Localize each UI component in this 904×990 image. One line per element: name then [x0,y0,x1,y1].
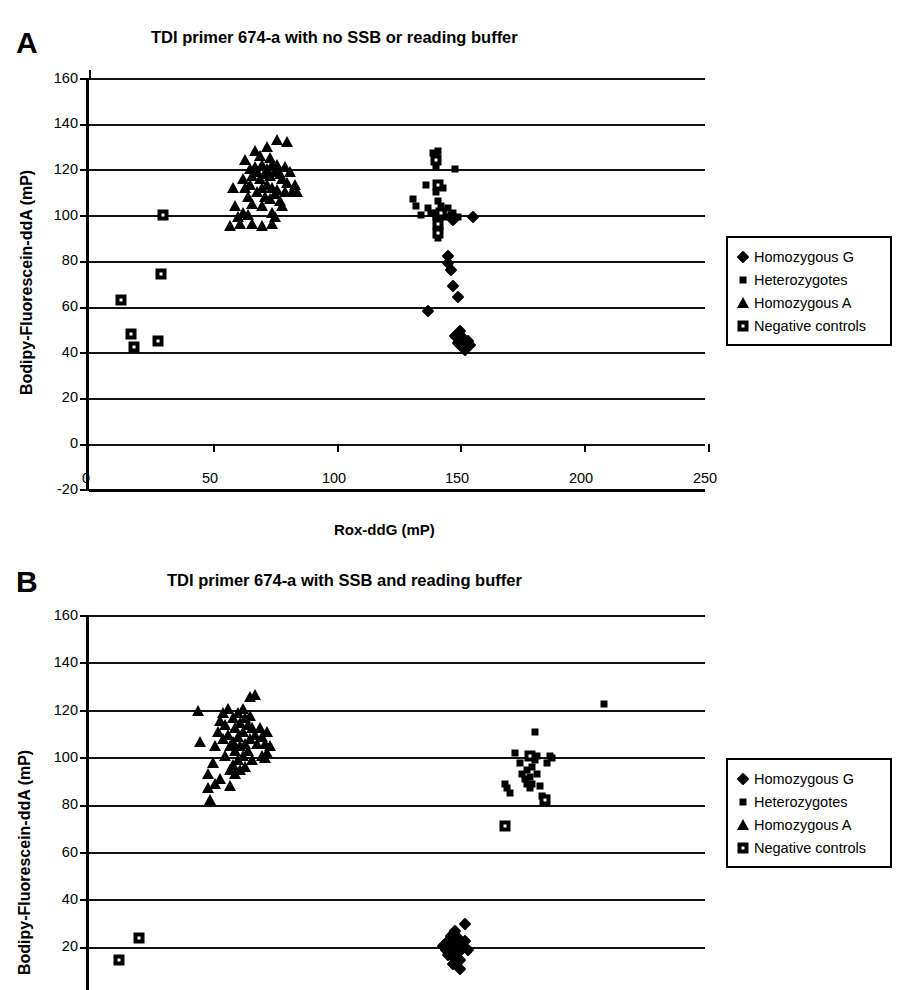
data-point-heterozygotes [536,783,543,790]
data-point-negative-controls [155,269,166,280]
data-point-homozygous-a [224,780,236,791]
small-square-marker [735,793,752,810]
data-point-negative-controls [539,795,550,806]
gridline-100 [89,215,705,217]
panel-b-letter: B [16,567,38,597]
gridline-160 [89,615,705,617]
xtick-label: 50 [190,470,230,486]
diamond-marker [737,773,750,786]
data-point-homozygous-a [194,736,206,747]
data-point-heterozygotes [549,755,556,762]
panel-a: A TDI primer 674-a with no SSB or readin… [0,0,904,555]
data-point-heterozygotes [534,771,541,778]
gridline-140 [89,662,705,664]
data-point-heterozygotes [529,780,536,787]
legend-item-negative-controls: Negative controls [735,314,881,337]
triangle-marker [735,816,752,833]
triangle-marker [737,297,749,308]
data-point-negative-controls [524,750,535,761]
data-point-homozygous-g [466,211,479,224]
panel-a-letter: A [16,28,38,58]
legend-item-negative-controls: Negative controls [735,836,881,859]
data-point-negative-controls [113,954,124,965]
ytick-label: 140 [28,115,78,131]
data-point-homozygous-a [261,726,273,737]
dotted-square-marker [735,839,752,856]
panel-b: B TDI primer 674-a with SSB and reading … [0,555,904,990]
data-point-heterozygotes [531,729,538,736]
data-point-negative-controls [116,294,127,305]
data-point-negative-controls [500,820,511,831]
panel-b-title: TDI primer 674-a with SSB and reading bu… [167,571,522,590]
triangle-marker [737,819,749,830]
data-point-homozygous-a [244,710,256,721]
gridline-60 [89,852,705,854]
data-point-negative-controls [158,210,169,221]
data-point-negative-controls [430,155,441,166]
legend-item-label: Negative controls [752,318,866,334]
ytick-label: 80 [28,252,78,268]
legend-item-label: Homozygous G [752,771,854,787]
data-point-homozygous-a [266,218,278,229]
data-point-homozygous-a [281,136,293,147]
gridline-80 [89,261,705,263]
dotted-square-marker [735,317,752,334]
gridline-140 [89,124,705,126]
data-point-heterozygotes [516,759,523,766]
data-point-homozygous-g [459,918,472,931]
legend-item-homozygous-a: Homozygous A [735,813,881,836]
diamond-marker [735,770,752,787]
data-point-negative-controls [153,335,164,346]
data-point-negative-controls [126,328,137,339]
data-point-heterozygotes [601,701,608,708]
data-point-heterozygotes [526,773,533,780]
gridline-120 [89,169,705,171]
panel-a-y-axis-label: Bodipy-Fluorescein-ddA (mP) [18,170,36,395]
legend-item-homozygous-a: Homozygous A [735,291,881,314]
xtick-label: 100 [314,470,354,486]
data-point-negative-controls [133,933,144,944]
legend-item-label: Heterozygotes [752,794,848,810]
data-point-negative-controls [128,342,139,353]
triangle-marker [735,294,752,311]
ytick-label: 140 [28,654,78,670]
data-point-heterozygotes [422,182,429,189]
legend-item-label: Homozygous G [752,249,854,265]
data-point-negative-controls [435,207,446,218]
gridline-0 [89,444,705,446]
ytick-label: 100 [28,207,78,223]
gridline-120 [89,710,705,712]
data-point-heterozygotes [511,750,518,757]
legend-item-label: Negative controls [752,840,866,856]
gridline-40 [89,899,705,901]
panel-b-plot-area [86,615,705,990]
data-point-heterozygotes [417,212,424,219]
dotted-square-marker [738,321,749,332]
ytick-label: 40 [28,344,78,360]
data-point-heterozygotes [435,148,442,155]
data-point-homozygous-a [284,166,296,177]
panel-a-plot-area [86,78,705,489]
data-point-negative-controls [433,180,444,191]
ytick-label: 80 [28,796,78,812]
ytick-label: 40 [28,891,78,907]
data-point-homozygous-a [249,689,261,700]
data-point-heterozygotes [452,166,459,173]
data-point-homozygous-a [264,740,276,751]
gridline-40 [89,352,705,354]
data-point-heterozygotes [529,764,536,771]
data-point-homozygous-g [452,291,465,304]
small-square-marker [740,799,747,806]
legend-item-heterozygotes: Heterozygotes [735,268,881,291]
data-point-homozygous-a [207,757,219,768]
ytick-label: 160 [28,607,78,623]
small-square-marker [735,271,752,288]
small-square-marker [740,277,747,284]
data-point-homozygous-a [224,220,236,231]
xtick-label: 200 [561,470,601,486]
ytick-label: 120 [28,161,78,177]
data-point-homozygous-a [192,705,204,716]
data-point-heterozygotes [412,202,419,209]
ytick-label: 160 [28,70,78,86]
data-point-homozygous-a [227,182,239,193]
